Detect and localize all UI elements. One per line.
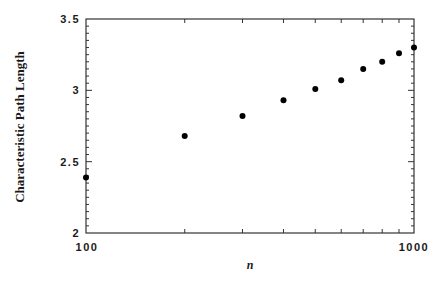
data-point — [360, 66, 366, 72]
data-point — [338, 77, 344, 83]
data-point — [281, 97, 287, 103]
data-point — [182, 133, 188, 139]
data-point — [240, 113, 246, 119]
data-point — [411, 45, 417, 51]
axis-ticks — [86, 19, 414, 233]
y-tick-2.5: 2.5 — [60, 156, 80, 168]
scatter-chart: 3.5 3 2.5 2 100 1000 n Characteristic Pa… — [0, 0, 441, 282]
data-point — [83, 174, 89, 180]
data-point — [396, 50, 402, 56]
data-points — [83, 45, 417, 181]
plot-frame — [86, 19, 414, 233]
x-tick-100: 100 — [76, 241, 99, 253]
data-point — [379, 59, 385, 65]
y-tick-2: 2 — [72, 227, 80, 239]
x-tick-1000: 1000 — [399, 241, 429, 253]
y-tick-3.5: 3.5 — [60, 13, 80, 25]
data-point — [312, 86, 318, 92]
y-tick-3: 3 — [72, 84, 80, 96]
x-axis-title: n — [247, 258, 254, 272]
y-axis-title: Characteristic Path Length — [12, 50, 27, 202]
